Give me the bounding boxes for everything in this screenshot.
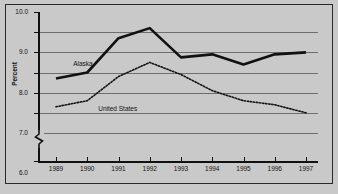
x-axis-line	[38, 161, 318, 163]
x-tick-label: 1993	[174, 166, 188, 173]
y-tick-label: 10.0	[15, 9, 28, 16]
x-tick-label: 1990	[80, 166, 94, 173]
plot-area: 10.09.08.07.06.05.04.00 1989199019911992…	[38, 12, 318, 163]
y-tick-label: 6.0	[19, 170, 28, 177]
y-tick-label: 8.0	[19, 89, 28, 96]
series-annotation: Alaska	[73, 61, 93, 68]
series-line-united-states	[56, 62, 306, 112]
x-tick-label: 1992	[143, 166, 157, 173]
chart-figure: Percent 10.09.08.07.06.05.04.00 19891990…	[0, 0, 338, 194]
x-tick-label: 1989	[49, 166, 63, 173]
x-tick-label: 1996	[268, 166, 282, 173]
y-tick-label: 9.0	[19, 49, 28, 56]
x-tick-label: 1994	[205, 166, 219, 173]
x-tick-label: 1995	[236, 166, 250, 173]
series-lines	[38, 12, 318, 163]
y-axis-title: Percent	[12, 62, 19, 86]
x-tick-label: 1991	[111, 166, 125, 173]
series-annotation: United States	[98, 106, 137, 113]
series-line-alaska	[56, 28, 306, 78]
axis-break-icon	[34, 130, 44, 148]
x-tick-label: 1997	[299, 166, 313, 173]
y-tick-label: 7.0	[19, 130, 28, 137]
